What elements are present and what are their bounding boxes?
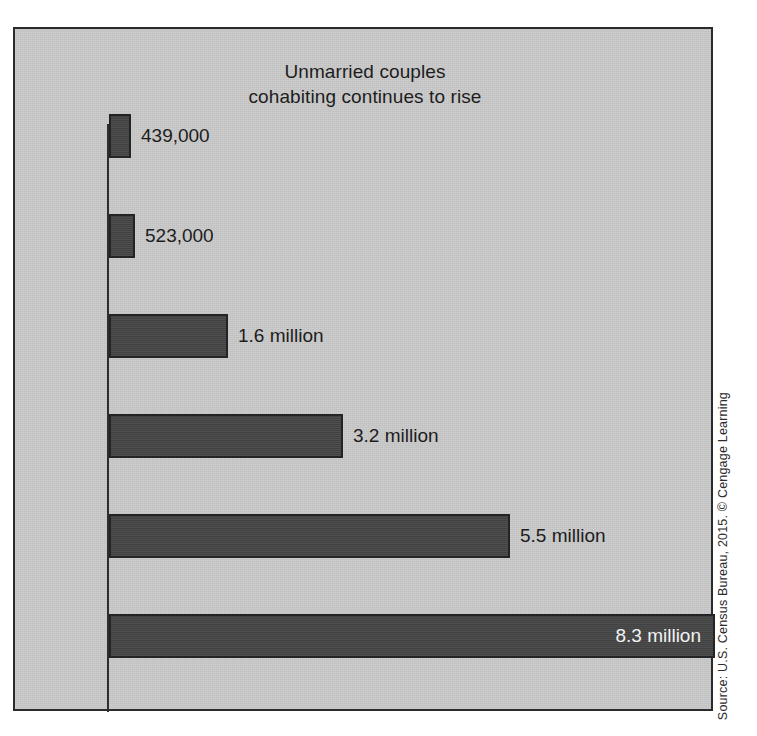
source-credit: Source: U.S. Census Bureau, 2015. © Ceng… <box>716 392 730 720</box>
bar-value-label: 5.5 million <box>520 514 606 558</box>
figure-container: Unmarried couples cohabiting continues t… <box>0 0 757 736</box>
bar-value-label: 3.2 million <box>353 414 439 458</box>
chart-panel: Unmarried couples cohabiting continues t… <box>13 27 713 711</box>
chart-title-line-2: cohabiting continues to rise <box>15 84 715 109</box>
chart-title-line-1: Unmarried couples <box>15 59 715 84</box>
bar[interactable] <box>109 414 343 458</box>
bar[interactable] <box>109 514 510 558</box>
bar-value-label: 8.3 million <box>615 614 701 658</box>
bar[interactable] <box>109 114 131 158</box>
bar-value-label: 523,000 <box>145 214 214 258</box>
bar-value-label: 439,000 <box>141 114 210 158</box>
bar[interactable] <box>109 214 135 258</box>
chart-title: Unmarried couples cohabiting continues t… <box>15 59 715 109</box>
plot-area: 1960 439,000 1970 523,000 1980 1.6 milli… <box>15 29 715 713</box>
bar-value-label: 1.6 million <box>238 314 324 358</box>
bar[interactable] <box>109 314 228 358</box>
